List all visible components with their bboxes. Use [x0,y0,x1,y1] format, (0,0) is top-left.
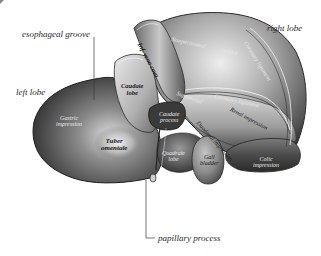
label-esophageal-groove: esophageal groove [22,30,90,39]
label-gastric-line2: impression [56,121,82,127]
label-gastric-impression: Gastric impression [56,115,82,128]
label-caudate-process: Caudate process [159,111,179,124]
label-caudate-process-line2: process [159,117,179,123]
label-quadrate-line2: lobe [162,156,185,162]
liver-illustration: esophageal groove right lobe left lobe p… [0,0,321,256]
label-quadrate-lobe: Quadrate lobe [162,150,185,163]
label-colic-line2: impression [253,162,279,168]
papillary-process-shape [150,174,156,182]
label-gall-bladder: Gall bladder [200,154,219,167]
papillary-process-leader [146,180,155,238]
corner-mark [0,0,4,4]
label-tuber-omentale: Tuber omentale [101,138,127,153]
label-caudate-lobe-line2: lobe [121,90,143,97]
label-caudate-lobe: Caudate lobe [121,83,143,97]
label-colic-impression: Colic impression [253,156,279,169]
label-tuber-line2: omentale [101,145,127,152]
label-right-lobe: right lobe [267,24,302,33]
label-gall-line2: bladder [200,160,219,166]
label-papillary-process: papillary process [158,234,220,243]
label-left-lobe: left lobe [16,88,45,97]
